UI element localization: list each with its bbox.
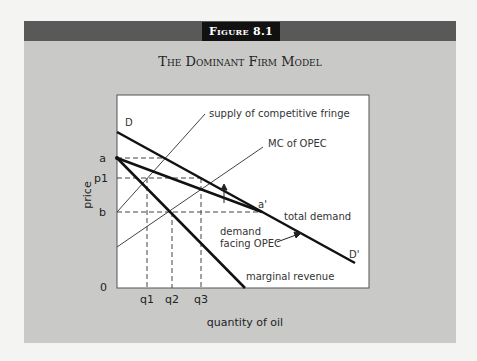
label-demand-opec-1: demand xyxy=(220,226,261,237)
origin-label: 0 xyxy=(100,281,107,294)
plot-area xyxy=(117,95,369,288)
label-demand-opec-2: facing OPEC xyxy=(220,238,281,249)
label-total-demand: total demand xyxy=(284,211,351,222)
point-a xyxy=(115,156,119,160)
label-mc-opec: MC of OPEC xyxy=(268,138,327,149)
y-tick-a: a xyxy=(99,152,106,165)
label-D-prime: D' xyxy=(349,249,359,260)
x-tick-q2: q2 xyxy=(165,293,179,306)
x-axis-title: quantity of oil xyxy=(207,316,283,329)
y-tick-p1: p1 xyxy=(94,172,108,185)
x-tick-q1: q1 xyxy=(140,293,154,306)
y-axis-title: price xyxy=(81,181,94,209)
x-tick-q3: q3 xyxy=(194,293,208,306)
label-D: D xyxy=(125,117,133,128)
label-a-prime: a' xyxy=(258,199,267,210)
label-marginal-revenue: marginal revenue xyxy=(246,271,334,282)
label-supply-fringe: supply of competitive fringe xyxy=(209,108,350,119)
dominant-firm-diagram: a p1 b 0 q1 q2 q3 quantity of oil price … xyxy=(0,0,477,361)
y-tick-b: b xyxy=(99,206,106,219)
